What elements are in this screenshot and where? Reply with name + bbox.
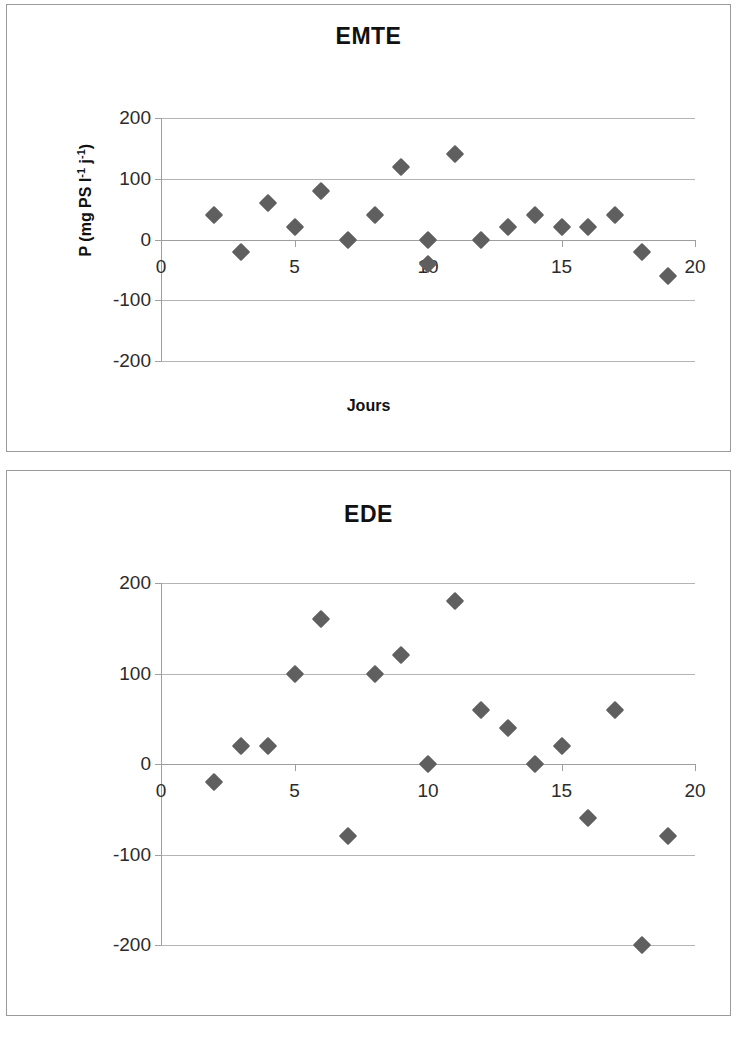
chart-panel-emte: EMTE P (mg PS l-1 j-1) -200-100010020005… <box>6 4 731 452</box>
data-point <box>392 157 410 175</box>
y-tick-label-emte--200: -200 <box>113 350 151 372</box>
y-tick-label-ede-100: 100 <box>119 663 151 685</box>
data-point <box>259 194 277 212</box>
x-tick-label-ede-5: 5 <box>289 780 300 802</box>
x-tick-mark-ede-20 <box>695 764 696 771</box>
data-point <box>232 242 250 260</box>
data-point <box>312 610 330 628</box>
gridline-ede-100 <box>161 674 695 675</box>
y-axis-title-ede: P (mg PS l-1 j-1) <box>75 1021 95 1039</box>
data-point <box>285 664 303 682</box>
x-tick-label-emte-15: 15 <box>551 256 572 278</box>
data-point <box>606 206 624 224</box>
x-tick-label-emte-20: 20 <box>684 256 705 278</box>
plot-area-ede: -200-100010020005101520 <box>161 583 695 945</box>
data-point <box>632 242 650 260</box>
gridline-emte--200 <box>161 361 695 362</box>
data-point <box>659 827 677 845</box>
y-tick-label-emte--100: -100 <box>113 289 151 311</box>
gridline-ede-200 <box>161 583 695 584</box>
chart-title-emte: EMTE <box>7 23 730 50</box>
y-tick-label-ede-0: 0 <box>140 753 151 775</box>
chart-panel-ede: EDE P (mg PS l-1 j-1) -200-1000100200051… <box>6 470 731 1016</box>
gridline-emte--100 <box>161 300 695 301</box>
data-point <box>606 700 624 718</box>
data-point <box>445 145 463 163</box>
data-point <box>632 936 650 954</box>
data-point <box>445 592 463 610</box>
y-tick-mark-emte--200 <box>155 361 161 362</box>
data-point <box>339 230 357 248</box>
x-tick-mark-emte-5 <box>295 240 296 247</box>
y-tick-label-ede-200: 200 <box>119 572 151 594</box>
x-tick-label-emte-5: 5 <box>289 256 300 278</box>
x-axis-title-emte: Jours <box>7 397 730 415</box>
data-point <box>285 218 303 236</box>
data-point <box>339 827 357 845</box>
y-tick-label-ede--200: -200 <box>113 934 151 956</box>
chart-title-ede: EDE <box>7 501 730 528</box>
gridline-ede--200 <box>161 945 695 946</box>
y-tick-label-emte-0: 0 <box>140 229 151 251</box>
data-point <box>205 773 223 791</box>
x-tick-label-ede-20: 20 <box>684 780 705 802</box>
y-axis-line-emte <box>161 118 162 361</box>
data-point <box>552 218 570 236</box>
data-point <box>419 755 437 773</box>
data-point <box>472 230 490 248</box>
data-point <box>526 206 544 224</box>
plot-area-emte: -200-100010020005101520 <box>161 118 695 361</box>
gridline-emte-100 <box>161 179 695 180</box>
figure-page: EMTE P (mg PS l-1 j-1) -200-100010020005… <box>0 0 737 1039</box>
y-axis-line-ede <box>161 583 162 945</box>
gridline-ede--100 <box>161 855 695 856</box>
x-tick-label-ede-15: 15 <box>551 780 572 802</box>
data-point <box>365 206 383 224</box>
data-point <box>499 719 517 737</box>
data-point <box>205 206 223 224</box>
x-tick-label-ede-0: 0 <box>156 780 167 802</box>
y-tick-label-emte-100: 100 <box>119 168 151 190</box>
data-point <box>259 737 277 755</box>
y-axis-title-emte: P (mg PS l-1 j-1) <box>75 110 95 290</box>
data-point <box>312 182 330 200</box>
x-tick-label-ede-10: 10 <box>417 780 438 802</box>
data-point <box>419 230 437 248</box>
data-point <box>579 218 597 236</box>
data-point <box>499 218 517 236</box>
data-point <box>552 737 570 755</box>
gridline-emte-200 <box>161 118 695 119</box>
x-tick-mark-emte-15 <box>562 240 563 247</box>
y-tick-label-ede--100: -100 <box>113 844 151 866</box>
x-tick-mark-emte-20 <box>695 240 696 247</box>
data-point <box>365 664 383 682</box>
x-tick-mark-ede-5 <box>295 764 296 771</box>
y-tick-mark-ede--200 <box>155 945 161 946</box>
y-tick-label-emte-200: 200 <box>119 107 151 129</box>
x-tick-mark-ede-15 <box>562 764 563 771</box>
x-tick-label-emte-0: 0 <box>156 256 167 278</box>
data-point <box>392 646 410 664</box>
data-point <box>232 737 250 755</box>
data-point <box>526 755 544 773</box>
data-point <box>579 809 597 827</box>
data-point <box>472 700 490 718</box>
data-point <box>659 267 677 285</box>
